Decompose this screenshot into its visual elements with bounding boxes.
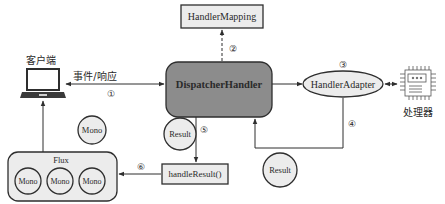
mono-single-label: Mono — [82, 125, 102, 135]
node-client: 客户端 — [20, 54, 66, 98]
node-handler-mapping: HandlerMapping — [181, 5, 263, 28]
node-dispatcher-handler: DispatcherHandler — [166, 62, 272, 117]
flux-mono-1: Mono — [15, 168, 41, 194]
step-4: ④ — [348, 119, 356, 129]
step-6: ⑥ — [137, 162, 145, 172]
dispatcher-handler-label: DispatcherHandler — [176, 79, 263, 90]
handler-adapter-label: HandlerAdapter — [311, 79, 376, 90]
flux-mono-2: Mono — [47, 168, 73, 194]
node-processor: 处理器 — [400, 66, 436, 118]
client-label: 客户端 — [26, 54, 56, 66]
result-left-label: Result — [169, 129, 191, 139]
laptop-icon — [20, 69, 66, 98]
result-right-label: Result — [269, 165, 291, 175]
node-handle-result: handleResult() — [162, 164, 228, 184]
step-2: ② — [229, 44, 237, 54]
node-result-right: Result — [263, 153, 297, 187]
chip-icon — [400, 66, 436, 100]
processor-label: 处理器 — [403, 107, 433, 118]
flux-mono-1-label: Mono — [18, 177, 37, 186]
node-result-left: Result — [164, 118, 196, 150]
step-5: ⑤ — [200, 125, 208, 135]
handler-mapping-label: HandlerMapping — [188, 11, 256, 22]
edge-label-event-response: 事件/响应 — [73, 70, 116, 82]
flux-mono-3: Mono — [79, 168, 105, 194]
flux-mono-3-label: Mono — [82, 177, 101, 186]
flow-diagram: 事件/响应 ① ② ③ ④ ⑤ ⑥ HandlerMapping Dispatc… — [0, 0, 445, 204]
step-1: ① — [107, 89, 115, 99]
node-flux: Flux Mono Mono Mono — [8, 152, 117, 201]
node-handler-adapter: HandlerAdapter — [303, 71, 383, 97]
step-3: ③ — [339, 60, 347, 70]
node-mono-single: Mono — [78, 116, 106, 144]
flux-mono-2-label: Mono — [50, 177, 69, 186]
handle-result-label: handleResult() — [169, 169, 222, 179]
flux-label: Flux — [53, 155, 69, 165]
